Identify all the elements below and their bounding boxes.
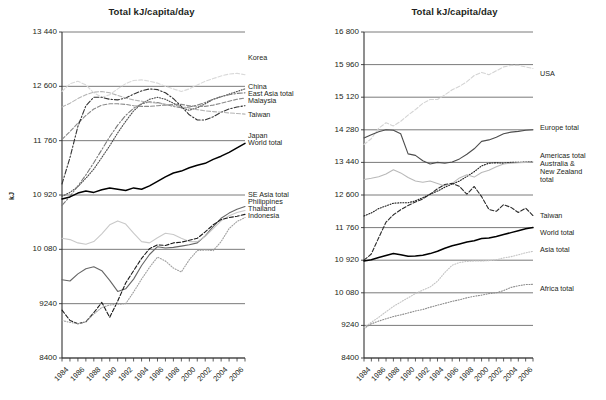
series-line [364, 228, 533, 261]
y-axis-tick: 11 760 [7, 136, 57, 145]
series-line [62, 214, 245, 323]
series-label: World total [540, 229, 574, 237]
y-axis-tick: 10 080 [7, 244, 57, 253]
series-line [62, 92, 245, 115]
series-line [364, 162, 533, 216]
y-axis-tick: 15 960 [309, 60, 359, 69]
y-axis-tick: 8400 [7, 353, 57, 362]
series-line [62, 93, 245, 206]
series-label: USA [540, 70, 555, 78]
y-axis-tick: 14 280 [309, 125, 359, 134]
y-axis-tick: 9240 [7, 299, 57, 308]
series-label: Indonesia [248, 212, 279, 220]
series-line [364, 284, 533, 328]
y-axis-tick: 16 800 [309, 27, 359, 36]
chart-panel-left: Total kJ/capita/day kJ 8400924010 08010 … [0, 0, 303, 400]
series-line [364, 251, 533, 327]
series-label: Taiwan [540, 212, 562, 220]
series-label: Malaysia [248, 97, 276, 105]
y-axis-tick: 9240 [309, 320, 359, 329]
series-label: World total [248, 139, 282, 147]
series-line [62, 98, 245, 139]
series-line [364, 130, 533, 164]
series-label: Asia total [540, 246, 570, 254]
series-label: total [540, 176, 554, 184]
series-label: Europe total [540, 124, 579, 132]
series-label: Taiwan [248, 111, 270, 119]
y-axis-tick: 12 600 [7, 81, 57, 90]
series-line [62, 218, 245, 324]
chart-panel-right: Total kJ/capita/day kJ 8400924010 08010 … [303, 0, 606, 400]
series-label: Africa total [540, 285, 574, 293]
series-label: Korea [248, 54, 267, 62]
y-axis-tick: 10 920 [309, 255, 359, 264]
y-axis-tick: 10 920 [7, 190, 57, 199]
figure-two-line-charts: Total kJ/capita/day kJ 8400924010 08010 … [0, 0, 606, 400]
series-line [62, 143, 245, 199]
y-axis-tick: 10 080 [309, 288, 359, 297]
series-line [62, 89, 245, 196]
series-line [364, 162, 533, 186]
y-axis-tick: 8400 [309, 353, 359, 362]
y-axis-tick: 13 440 [7, 27, 57, 36]
y-axis-tick: 13 440 [309, 157, 359, 166]
y-axis-tick: 15 120 [309, 92, 359, 101]
y-axis-tick: 11 760 [309, 223, 359, 232]
series-line [62, 211, 245, 245]
y-axis-tick: 12 600 [309, 190, 359, 199]
